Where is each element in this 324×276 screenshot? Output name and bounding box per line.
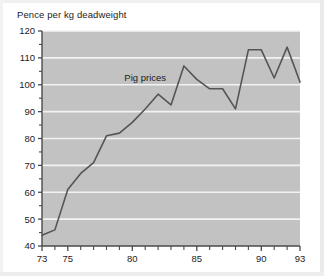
chart-plot-area: 120110100908070605040 737580859093 Pig p…	[0, 0, 324, 276]
x-tick-label-90: 90	[256, 253, 267, 264]
y-tick-label-50: 50	[24, 214, 35, 225]
x-axis-tick-labels: 737580859093	[37, 253, 306, 264]
chart-page: Pence per kg deadweight 1201101009080706…	[0, 0, 324, 276]
x-tick-label-73: 73	[37, 253, 48, 264]
y-tick-label-60: 60	[24, 187, 35, 198]
x-tick-label-85: 85	[192, 253, 203, 264]
x-tick-label-75: 75	[63, 253, 74, 264]
annotation-pig-prices: Pig prices	[124, 72, 166, 83]
y-tick-label-70: 70	[24, 160, 35, 171]
y-tick-label-100: 100	[19, 79, 35, 90]
y-tick-label-110: 110	[20, 52, 35, 63]
y-axis-tick-labels: 120110100908070605040	[19, 25, 35, 251]
x-tick-label-80: 80	[127, 253, 138, 264]
line-chart-svg: 120110100908070605040 737580859093 Pig p…	[0, 0, 324, 276]
y-tick-label-90: 90	[24, 106, 35, 117]
y-tick-label-80: 80	[24, 133, 35, 144]
series-annotations: Pig prices	[124, 72, 166, 83]
y-tick-label-40: 40	[24, 240, 35, 251]
x-tick-label-93: 93	[295, 253, 306, 264]
y-tick-label-120: 120	[19, 25, 35, 36]
